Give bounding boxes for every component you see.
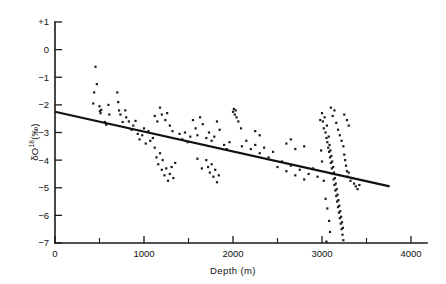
- data-point: [335, 122, 337, 124]
- data-point: [125, 116, 127, 118]
- data-point: [170, 166, 172, 168]
- data-point: [241, 145, 243, 147]
- data-point: [303, 145, 305, 147]
- data-point: [327, 147, 329, 149]
- data-point: [196, 134, 198, 136]
- data-point: [308, 173, 310, 175]
- data-point: [342, 227, 344, 229]
- data-point: [237, 120, 239, 122]
- data-point: [163, 174, 165, 176]
- data-point: [342, 239, 344, 241]
- data-point: [118, 109, 120, 111]
- data-point: [336, 194, 338, 196]
- data-point: [99, 112, 101, 114]
- data-point: [331, 160, 333, 162]
- x-axis-tick-label: 2000: [222, 248, 243, 259]
- data-point: [328, 220, 330, 222]
- data-point: [245, 140, 247, 142]
- data-points-group: [92, 66, 360, 243]
- data-point: [149, 140, 151, 142]
- y-axis-tick-label: −3: [38, 127, 49, 138]
- data-point: [172, 177, 174, 179]
- data-point: [161, 113, 163, 115]
- data-point: [330, 155, 332, 157]
- data-point: [294, 148, 296, 150]
- data-point: [343, 154, 345, 156]
- data-point: [348, 171, 350, 173]
- data-point: [145, 142, 147, 144]
- data-point: [319, 119, 321, 121]
- axes-group: [55, 22, 427, 243]
- data-point: [268, 156, 270, 158]
- data-point: [320, 149, 322, 151]
- data-point: [116, 91, 118, 93]
- scatter-plot-svg: +10−1−2−3−4−5−6−701000200030004000 Depth…: [0, 0, 446, 284]
- data-point: [119, 113, 121, 115]
- data-point: [334, 177, 336, 179]
- data-point: [345, 165, 347, 167]
- data-point: [201, 167, 203, 169]
- data-point: [324, 116, 326, 118]
- data-point: [184, 131, 186, 133]
- data-point: [299, 169, 301, 171]
- data-point: [196, 158, 198, 160]
- data-point: [154, 115, 156, 117]
- data-point: [337, 129, 339, 131]
- data-point: [228, 141, 230, 143]
- data-point: [358, 184, 360, 186]
- data-point: [96, 83, 98, 85]
- x-axis-tick-label: 3000: [311, 248, 332, 259]
- data-point: [209, 171, 211, 173]
- data-point: [223, 144, 225, 146]
- data-point: [343, 113, 345, 115]
- data-point: [357, 188, 359, 190]
- y-axis-tick-label: +1: [38, 16, 49, 27]
- data-point: [316, 176, 318, 178]
- data-point: [333, 109, 335, 111]
- data-point: [355, 185, 357, 187]
- data-point: [259, 152, 261, 154]
- data-point: [162, 159, 164, 161]
- x-axis-tick-label: 1000: [133, 248, 154, 259]
- data-point: [348, 124, 350, 126]
- data-point: [325, 241, 327, 243]
- data-point: [213, 136, 215, 138]
- data-point: [169, 124, 171, 126]
- data-point: [325, 137, 327, 139]
- y-axis-tick-label: 0: [44, 44, 49, 55]
- data-point: [192, 119, 194, 121]
- data-point: [205, 137, 207, 139]
- data-point: [338, 205, 340, 207]
- data-point: [332, 115, 334, 117]
- data-point: [205, 159, 207, 161]
- data-point: [216, 120, 218, 122]
- data-point: [341, 234, 343, 236]
- data-point: [152, 137, 154, 139]
- data-point: [100, 109, 102, 111]
- data-point: [250, 148, 252, 150]
- data-point: [321, 160, 323, 162]
- data-point: [108, 113, 110, 115]
- data-point: [219, 129, 221, 131]
- data-point: [303, 178, 305, 180]
- x-axis-tick-label: 4000: [400, 248, 421, 259]
- data-point: [326, 124, 328, 126]
- data-point: [322, 120, 324, 122]
- data-point: [137, 133, 139, 135]
- data-point: [329, 231, 331, 233]
- data-point: [98, 105, 100, 107]
- data-point: [212, 176, 214, 178]
- data-point: [202, 123, 204, 125]
- data-point: [159, 107, 161, 109]
- axis-titles-group: Depth (m): [210, 265, 256, 276]
- data-point: [340, 216, 342, 218]
- data-point: [138, 138, 140, 140]
- data-point: [272, 151, 274, 153]
- data-point: [323, 127, 325, 129]
- data-point: [167, 180, 169, 182]
- data-point: [344, 159, 346, 161]
- tick-labels-group: +10−1−2−3−4−5−6−701000200030004000: [38, 16, 421, 259]
- data-point: [124, 109, 126, 111]
- data-point: [276, 166, 278, 168]
- data-point: [285, 170, 287, 172]
